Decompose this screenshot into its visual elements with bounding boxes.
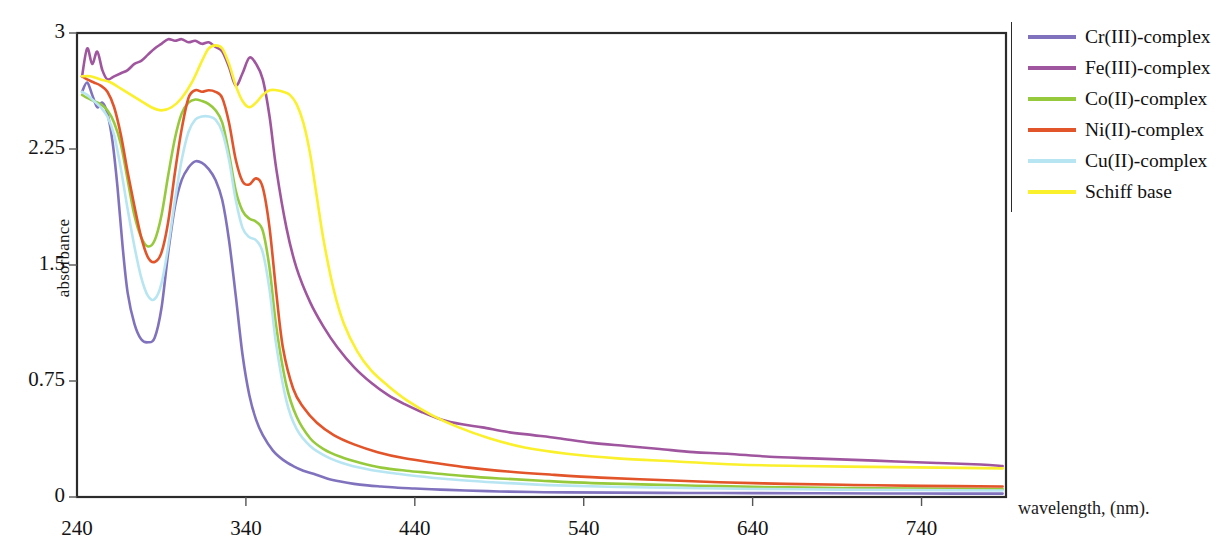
y-tick-label: 3: [5, 19, 65, 44]
y-tick-label: 0: [5, 483, 65, 508]
legend-color-swatch: [1028, 66, 1076, 69]
y-tick-label: 0.75: [5, 367, 65, 392]
legend-item[interactable]: Co(II)-complex: [1012, 84, 1207, 114]
legend-item-label: Co(II)-complex: [1085, 89, 1207, 109]
x-tick-label: 640: [708, 516, 798, 541]
x-tick-label: 540: [539, 516, 629, 541]
y-tick-label: 2.25: [5, 135, 65, 160]
legend-item-label: Fe(III)-complex: [1085, 58, 1211, 78]
legend-item[interactable]: Cr(III)-complex: [1012, 22, 1211, 52]
legend-item-label: Cr(III)-complex: [1085, 27, 1211, 47]
legend-color-swatch: [1028, 190, 1076, 193]
legend-color-swatch: [1028, 159, 1076, 162]
chart-legend: Cr(III)-complexFe(III)-complexCo(II)-com…: [1011, 22, 1230, 212]
legend-item-label: Ni(II)-complex: [1085, 120, 1204, 140]
legend-color-swatch: [1028, 35, 1076, 38]
x-tick-label: 440: [370, 516, 460, 541]
x-tick-label: 240: [32, 516, 122, 541]
legend-item[interactable]: Cu(II)-complex: [1012, 146, 1207, 176]
x-tick-label: 340: [201, 516, 291, 541]
uv-vis-spectrum-figure: absorbance 00.751.52.253 240340440540640…: [0, 0, 1230, 556]
legend-item-label: Schiff base: [1085, 182, 1172, 202]
x-axis-title: wavelength, (nm).: [1018, 498, 1149, 519]
x-tick-label: 740: [877, 516, 967, 541]
legend-item-label: Cu(II)-complex: [1085, 151, 1207, 171]
legend-item[interactable]: Schiff base: [1012, 177, 1172, 207]
legend-color-swatch: [1028, 97, 1076, 100]
legend-color-swatch: [1028, 128, 1076, 131]
y-tick-label: 1.5: [5, 251, 65, 276]
legend-item[interactable]: Fe(III)-complex: [1012, 53, 1211, 83]
legend-item[interactable]: Ni(II)-complex: [1012, 115, 1204, 145]
plot-frame: [77, 33, 1006, 497]
